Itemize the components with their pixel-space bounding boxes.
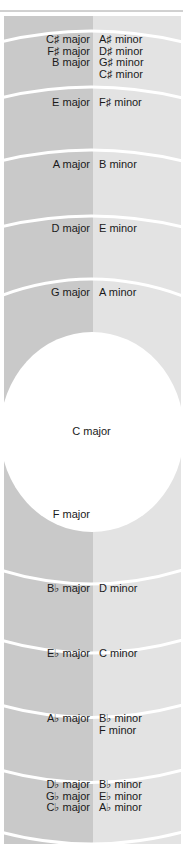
minor-key-label: A♭ minor [99, 802, 142, 813]
minor-key-label: D♯ minor [99, 46, 143, 57]
major-key-label: E♭ major [47, 648, 90, 659]
minor-key-label: F♯ minor [99, 97, 142, 108]
major-key-label: G major [51, 287, 90, 298]
minor-key-label: A♯ minor [99, 34, 142, 45]
minor-key-label: C♯ minor [99, 69, 143, 80]
major-key-label: B major [52, 57, 90, 68]
minor-key-label: E♭ minor [99, 791, 142, 802]
minor-key-label: F minor [99, 725, 136, 736]
major-key-label: F major [53, 509, 90, 520]
major-key-label: A♭ major [47, 713, 90, 724]
minor-key-label: B minor [99, 159, 137, 170]
major-key-label: G♭ major [46, 791, 90, 802]
major-key-label: E major [52, 97, 90, 108]
major-key-label: F♯ major [47, 46, 90, 57]
major-key-label: D major [51, 223, 90, 234]
major-key-label: C♯ major [46, 34, 90, 45]
key-strip-diagram [0, 0, 183, 844]
major-key-label: D♭ major [46, 779, 90, 790]
minor-key-label: A minor [99, 287, 136, 298]
minor-key-label: B♭ minor [99, 779, 142, 790]
major-key-label: A major [53, 159, 90, 170]
major-key-label: B♭ major [47, 583, 90, 594]
minor-key-label: C minor [99, 648, 138, 659]
center-key-label: C major [0, 425, 183, 437]
minor-key-label: G♯ minor [99, 57, 144, 68]
minor-key-label: D minor [99, 583, 138, 594]
minor-key-label: E minor [99, 223, 137, 234]
major-key-label: C♭ major [46, 802, 90, 813]
minor-key-label: B♭ minor [99, 713, 142, 724]
